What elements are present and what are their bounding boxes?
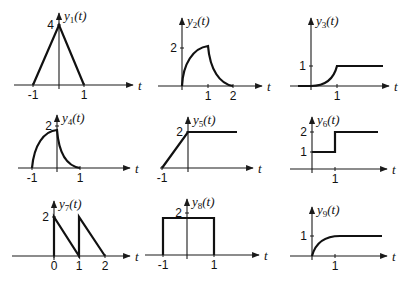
t-tick-label: 1 xyxy=(76,259,83,273)
t-axis-label: t xyxy=(394,79,398,94)
t-axis-label: t xyxy=(264,248,268,263)
t-tick-label: 1 xyxy=(211,258,218,272)
plot-y2: t122y2(t) xyxy=(158,13,271,103)
t-axis-label: t xyxy=(392,249,396,264)
t-axis-label: t xyxy=(138,78,142,93)
signal-plots-svg: t-114y1(t)t122y2(t)t11y3(t)t-112y4(t)t-1… xyxy=(0,0,407,286)
t-tick-label: -1 xyxy=(28,88,39,102)
y-tick-label: 2 xyxy=(42,210,49,224)
signal-name-label: y8(t) xyxy=(190,194,215,211)
y-tick-label: 1 xyxy=(299,59,306,73)
y-tick-label: 2 xyxy=(175,206,182,220)
y-tick-label: 4 xyxy=(47,18,54,32)
plot-y4: t-112y4(t) xyxy=(18,110,139,185)
t-tick-label: -1 xyxy=(158,258,169,272)
t-tick-label: -1 xyxy=(157,171,168,185)
t-tick-label: 1 xyxy=(334,89,341,103)
plot-y6: t121y6(t) xyxy=(290,112,396,186)
signal-curve xyxy=(32,130,80,168)
signal-plots-figure: t-114y1(t)t122y2(t)t11y3(t)t-112y4(t)t-1… xyxy=(0,0,407,286)
plot-y9: t11y9(t) xyxy=(290,202,396,273)
y-tick-label: 1 xyxy=(300,229,307,243)
signal-name-label: y4(t) xyxy=(60,110,85,127)
t-axis-label: t xyxy=(392,162,396,177)
t-tick-label: 1 xyxy=(332,172,339,186)
plot-y1: t-114y1(t) xyxy=(14,8,142,102)
t-tick-label: 0 xyxy=(51,259,58,273)
signal-curve xyxy=(182,46,233,86)
y-tick-label: 2 xyxy=(170,41,177,55)
t-axis-label: t xyxy=(135,161,139,176)
plot-y5: t-12y5(t) xyxy=(157,112,262,185)
signal-curve xyxy=(312,132,378,152)
signal-name-label: y3(t) xyxy=(314,13,339,30)
t-tick-label: 1 xyxy=(81,88,88,102)
t-tick-label: 1 xyxy=(332,259,339,273)
t-axis-label: t xyxy=(267,79,271,94)
signal-name-label: y5(t) xyxy=(191,112,216,129)
signal-curve xyxy=(163,218,214,255)
t-tick-label: 1 xyxy=(77,171,84,185)
t-axis-label: t xyxy=(135,249,139,264)
t-axis-label: t xyxy=(258,161,262,176)
y-tick-label: 2 xyxy=(300,125,307,139)
signal-name-label: y6(t) xyxy=(315,112,340,129)
signal-name-label: y7(t) xyxy=(57,196,82,213)
signal-curve xyxy=(312,236,382,256)
signal-name-label: y9(t) xyxy=(315,202,340,219)
t-tick-label: 2 xyxy=(230,89,237,103)
signal-curve xyxy=(54,217,105,256)
signal-curve xyxy=(162,132,237,168)
y-tick-label: 1 xyxy=(300,145,307,159)
t-tick-label: -1 xyxy=(27,171,38,185)
y-tick-label: 2 xyxy=(45,119,52,133)
signal-name-label: y1(t) xyxy=(62,8,87,25)
signal-name-label: y2(t) xyxy=(185,13,210,30)
plot-y8: t-112y8(t) xyxy=(145,194,268,272)
t-tick-label: 1 xyxy=(205,89,212,103)
plot-y7: t0122y7(t) xyxy=(12,196,139,273)
t-tick-label: 2 xyxy=(102,259,109,273)
y-tick-label: 2 xyxy=(176,125,183,139)
plot-y3: t11y3(t) xyxy=(290,13,398,103)
